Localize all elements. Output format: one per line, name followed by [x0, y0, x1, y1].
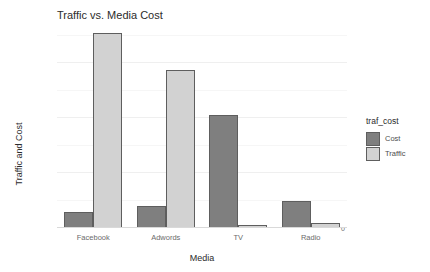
- legend-label: Traffic: [385, 149, 405, 158]
- bar-group: [64, 22, 122, 228]
- legend: traf_cost CostTraffic: [366, 116, 405, 161]
- legend-title: traf_cost: [366, 116, 405, 126]
- legend-items: CostTraffic: [366, 131, 405, 161]
- bar-adwords-traffic[interactable]: [166, 70, 195, 228]
- bar-tv-cost[interactable]: [209, 115, 238, 228]
- x-tick-label: Radio: [301, 233, 321, 242]
- legend-item-cost[interactable]: Cost: [366, 131, 405, 146]
- x-axis-title: Media: [57, 253, 347, 263]
- bar-radio-cost[interactable]: [282, 201, 311, 228]
- chart-title: Traffic vs. Media Cost: [57, 9, 163, 21]
- plot-panel: [57, 22, 347, 228]
- chart-container: Traffic vs. Media Cost Traffic and Cost …: [0, 0, 430, 272]
- bar-facebook-cost[interactable]: [64, 212, 93, 228]
- x-tick-label: Adwords: [151, 233, 180, 242]
- bar-group: [282, 22, 340, 228]
- x-tick-label: TV: [233, 233, 243, 242]
- bar-group: [209, 22, 267, 228]
- legend-label: Cost: [385, 134, 400, 143]
- x-axis-line: [57, 227, 347, 228]
- bar-facebook-traffic[interactable]: [93, 33, 122, 228]
- legend-swatch-traffic: [366, 147, 380, 161]
- bar-adwords-cost[interactable]: [137, 206, 166, 228]
- bar-group: [137, 22, 195, 228]
- legend-item-traffic[interactable]: Traffic: [366, 146, 405, 161]
- x-tick-label: Facebook: [77, 233, 110, 242]
- y-axis-title: Traffic and Cost: [14, 94, 24, 214]
- legend-swatch-cost: [366, 132, 380, 146]
